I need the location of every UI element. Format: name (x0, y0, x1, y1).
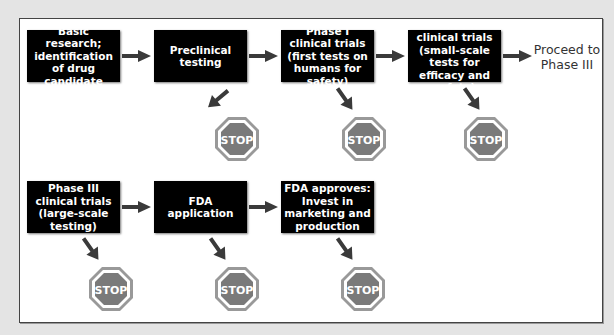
arrow-down-right-icon (332, 84, 358, 114)
svg-text:STOP: STOP (347, 284, 380, 297)
step-phase1: Phase I clinical trials (first tests on … (281, 30, 374, 82)
arrow-right-icon (122, 200, 152, 214)
arrow-right-icon (376, 49, 406, 63)
stop-sign-icon: STOP (340, 266, 386, 312)
svg-text:STOP: STOP (470, 134, 503, 147)
svg-text:STOP: STOP (348, 134, 381, 147)
arrow-down-right-icon (459, 84, 485, 114)
step-phase2: Phase II clinical trials (small-scale te… (408, 30, 501, 82)
stop-sign-icon: STOP (341, 116, 387, 162)
step-fda-application: FDA application (154, 181, 247, 233)
arrow-down-right-icon (205, 84, 231, 114)
stop-sign-icon: STOP (214, 116, 260, 162)
arrow-down-right-icon (205, 234, 231, 264)
step-basic-research: Basic research; identification of drug c… (27, 30, 120, 82)
step-phase3: Phase III clinical trials (large-scale t… (27, 181, 120, 233)
arrow-down-right-icon (78, 234, 104, 264)
arrow-right-icon (249, 200, 279, 214)
svg-text:STOP: STOP (221, 284, 254, 297)
svg-text:STOP: STOP (221, 134, 254, 147)
arrow-down-right-icon (332, 234, 358, 264)
step-preclinical: Preclinical testing (154, 30, 247, 82)
stop-sign-icon: STOP (88, 266, 134, 312)
stop-sign-icon: STOP (463, 116, 509, 162)
arrow-right-icon (122, 49, 152, 63)
step-fda-approves: FDA approves: Invest in marketing and pr… (281, 181, 374, 233)
stop-sign-icon: STOP (214, 266, 260, 312)
proceed-note: Proceed to Phase III (530, 42, 604, 72)
svg-text:STOP: STOP (95, 284, 128, 297)
arrow-right-icon (503, 49, 533, 63)
arrow-right-icon (249, 49, 279, 63)
